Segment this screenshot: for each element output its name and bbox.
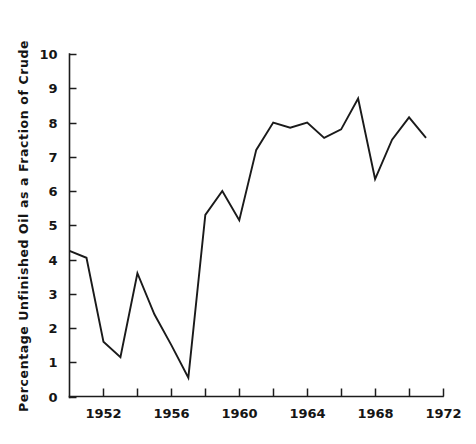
y-tick-label: 8: [48, 116, 57, 131]
x-tick-label: 1952: [85, 406, 121, 421]
y-tick-label: 6: [48, 184, 57, 199]
line-chart-plot: 012345678910 195219561960196419681972 Pe…: [0, 0, 476, 444]
data-series-line: [70, 99, 427, 378]
y-tick-label: 2: [48, 321, 57, 336]
x-axis-tick-labels: 195219561960196419681972: [85, 406, 461, 421]
y-tick-label: 0: [48, 390, 57, 405]
y-tick-label: 5: [48, 218, 57, 233]
y-axis-tick-labels: 012345678910: [39, 47, 57, 405]
y-tick-label: 7: [48, 150, 57, 165]
x-tick-label: 1964: [289, 406, 325, 421]
chart-axes: [70, 54, 444, 398]
y-axis-title-text: Percentage Unfinished Oil as a Fraction …: [16, 40, 31, 412]
y-tick-label: 10: [39, 47, 57, 62]
y-tick-label: 1: [48, 355, 57, 370]
y-axis-title: Percentage Unfinished Oil as a Fraction …: [16, 40, 31, 412]
x-tick-label: 1972: [425, 406, 461, 421]
chart-figure: 012345678910 195219561960196419681972 Pe…: [0, 0, 476, 444]
x-tick-label: 1956: [153, 406, 189, 421]
x-axis-ticks: [104, 389, 444, 397]
y-tick-label: 4: [48, 253, 57, 268]
y-axis-ticks: [70, 55, 77, 398]
x-tick-label: 1960: [221, 406, 257, 421]
y-tick-label: 9: [48, 81, 57, 96]
y-tick-label: 3: [48, 287, 57, 302]
x-tick-label: 1968: [357, 406, 393, 421]
